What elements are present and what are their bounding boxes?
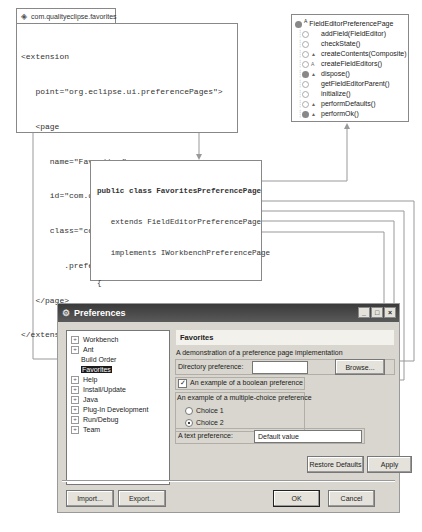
tree-item-favorites[interactable]: Favorites <box>81 365 112 375</box>
member-name: dispose() <box>321 70 350 77</box>
tree-item-install-update[interactable]: +Install/Update <box>71 385 126 395</box>
maximize-button[interactable]: □ <box>371 307 383 318</box>
method-icon <box>302 41 309 48</box>
dialog-title: Preferences <box>74 308 126 318</box>
choice-1-radio[interactable]: Choice 1 <box>185 407 224 415</box>
text-input[interactable]: Default value <box>254 430 362 443</box>
outline-title: A FieldEditorPreferencePage <box>295 18 393 28</box>
outline-member[interactable]: ┊▲dispose() <box>298 69 350 79</box>
plugin-icon: ◈ <box>21 12 27 21</box>
ok-button[interactable]: OK <box>273 490 320 507</box>
browse-button[interactable]: Browse... <box>335 359 385 375</box>
outline-member[interactable]: ┊▲createContents(Composite) <box>298 49 407 59</box>
member-marker: ▲ <box>311 109 321 119</box>
export-button[interactable]: Export... <box>118 490 166 507</box>
member-name: createContents(Composite) <box>321 50 407 57</box>
radio-selected-icon[interactable] <box>185 419 193 427</box>
expand-icon[interactable]: + <box>71 406 79 414</box>
radio-group-label: An example of a multiple-choice preferen… <box>177 394 312 401</box>
method-icon <box>302 111 309 118</box>
outline-member[interactable]: ┊getFieldEditorParent() <box>298 79 389 89</box>
outline-member[interactable]: ┊AcreateFieldEditors() <box>298 59 382 69</box>
tree-item-label: Plug-In Development <box>83 406 148 413</box>
text-label: A text preference: <box>178 432 233 439</box>
tree-item-run-debug[interactable]: +Run/Debug <box>71 415 118 425</box>
code-line: extends FieldEditorPreferencePage <box>97 217 298 227</box>
outline-member[interactable]: ┊▲performDefaults() <box>298 99 375 109</box>
directory-input[interactable] <box>252 361 308 374</box>
class-icon <box>295 21 302 28</box>
code-line: public class FavoritesPreferencePage <box>97 186 298 196</box>
tree-item-label: Ant <box>83 346 94 353</box>
outline-title-label: FieldEditorPreferencePage <box>309 20 393 27</box>
class-outline: A FieldEditorPreferencePage ┊addField(Fi… <box>291 14 409 122</box>
tree-item-plugin-development[interactable]: +Plug-In Development <box>71 405 148 415</box>
restore-defaults-button[interactable]: Restore Defaults <box>307 456 364 473</box>
method-icon <box>302 81 309 88</box>
xml-editor: <extension point="org.eclipse.ui.prefere… <box>16 23 238 133</box>
outline-member[interactable]: ┊checkState() <box>298 39 360 49</box>
expand-icon[interactable]: + <box>71 346 79 354</box>
import-button[interactable]: Import... <box>66 490 114 507</box>
method-icon <box>302 61 309 68</box>
java-code-box: public class FavoritesPreferencePage ext… <box>90 160 262 281</box>
title-bar[interactable]: ⚙ Preferences _ □ × <box>58 304 399 322</box>
directory-label: Directory preference: <box>178 363 243 370</box>
expand-icon[interactable]: + <box>71 386 79 394</box>
xml-line: point="org.eclipse.ui.preferencePages"> <box>21 86 261 98</box>
preferences-dialog: ⚙ Preferences _ □ × +Workbench +Ant Buil… <box>57 303 400 513</box>
outline-member[interactable]: ┊addField(FieldEditor) <box>298 29 386 39</box>
tree-item-label: Install/Update <box>83 386 126 393</box>
code-line: implements IWorkbenchPreferencePage <box>97 248 298 258</box>
method-icon <box>302 31 309 38</box>
editor-tab-label: com.qualityeclipse.favorites <box>31 13 117 20</box>
minimize-button[interactable]: _ <box>358 307 370 318</box>
outline-member[interactable]: ┊initialize() <box>298 89 351 99</box>
expand-icon[interactable]: + <box>71 376 79 384</box>
window-controls: _ □ × <box>358 307 396 318</box>
tree-item-team[interactable]: +Team <box>71 425 100 435</box>
member-name: checkState() <box>321 40 360 47</box>
checkbox-icon[interactable]: ✓ <box>178 379 187 388</box>
tree-item-label: Team <box>83 426 100 433</box>
expand-icon[interactable]: + <box>71 396 79 404</box>
boolean-checkbox[interactable]: ✓An example of a boolean preference <box>178 379 303 388</box>
choice-label: Choice 1 <box>196 407 224 414</box>
tree-item-build-order[interactable]: Build Order <box>81 355 116 365</box>
apply-button[interactable]: Apply <box>367 456 412 473</box>
boolean-label: An example of a boolean preference <box>190 379 303 386</box>
editor-tab[interactable]: ◈com.qualityeclipse.favorites <box>16 8 116 23</box>
tree-item-label: Build Order <box>81 356 116 363</box>
page-description: A demonstration of a preference page imp… <box>176 349 343 356</box>
member-name: getFieldEditorParent() <box>321 80 389 87</box>
tree-item-java[interactable]: +Java <box>71 395 98 405</box>
cancel-button[interactable]: Cancel <box>328 490 375 507</box>
member-name: performDefaults() <box>321 100 375 107</box>
tree-item-label: Run/Debug <box>83 416 118 423</box>
member-marker: A <box>311 59 321 69</box>
tree-item-help[interactable]: +Help <box>71 375 97 385</box>
tree-item-ant[interactable]: +Ant <box>71 345 94 355</box>
member-marker: ▲ <box>311 49 321 59</box>
tree-item-label: Favorites <box>81 366 112 373</box>
tree-item-label: Workbench <box>83 336 118 343</box>
tree-item-workbench[interactable]: +Workbench <box>71 335 118 345</box>
method-icon <box>302 101 309 108</box>
preference-tree: +Workbench +Ant Build Order Favorites +H… <box>66 330 170 485</box>
radio-icon[interactable] <box>185 407 193 415</box>
preferences-icon: ⚙ <box>62 304 70 322</box>
method-icon <box>302 91 309 98</box>
close-button[interactable]: × <box>384 307 396 318</box>
method-icon <box>302 51 309 58</box>
member-marker: ▲ <box>311 99 321 109</box>
xml-line: <extension <box>21 51 261 63</box>
expand-icon[interactable]: + <box>71 416 79 424</box>
member-marker: ▲ <box>311 69 321 79</box>
outline-member[interactable]: ┊▲performOk() <box>298 109 359 119</box>
separator <box>62 480 395 482</box>
tree-item-label: Java <box>83 396 98 403</box>
page-title: Favorites <box>176 330 394 345</box>
expand-icon[interactable]: + <box>71 426 79 434</box>
choice-2-radio[interactable]: Choice 2 <box>185 419 224 427</box>
expand-icon[interactable]: + <box>71 336 79 344</box>
